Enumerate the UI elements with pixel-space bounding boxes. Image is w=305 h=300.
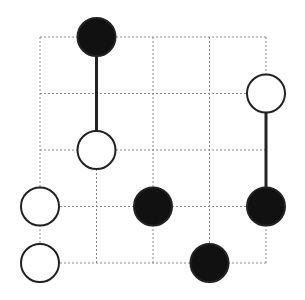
black-circle-icon [191,244,229,282]
white-circle-icon [21,188,59,226]
white-circle-icon [21,244,59,282]
grid-lines [40,37,266,263]
black-circle-icon [247,188,285,226]
white-circle-icon [247,75,285,113]
white-circle-icon [78,131,116,169]
black-circle-icon [134,188,172,226]
black-circle-icon [78,18,116,56]
drawn-segments [97,37,267,207]
puzzle-board[interactable] [0,0,305,300]
